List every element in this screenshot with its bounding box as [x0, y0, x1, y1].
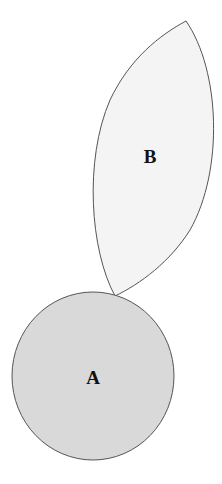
- shape-b-leaf: B: [93, 21, 213, 296]
- label-a: A: [86, 367, 100, 388]
- shape-a-circle: A: [12, 292, 174, 460]
- diagram-canvas: B A: [0, 0, 222, 484]
- label-b: B: [144, 146, 157, 167]
